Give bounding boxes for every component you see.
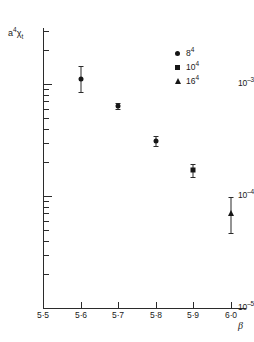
y-tick-label: 10–3 — [216, 78, 254, 88]
y-tick-minor — [44, 129, 49, 130]
error-bar-cap-lower — [116, 109, 121, 110]
y-tick-minor — [44, 109, 49, 110]
y-tick-minor — [44, 241, 49, 242]
data-point — [228, 210, 234, 216]
y-tick-minor — [44, 230, 49, 231]
circle-icon — [175, 51, 180, 56]
y-tick-minor — [44, 89, 49, 90]
error-bar-cap-lower — [191, 177, 196, 178]
y-tick-minor — [44, 201, 49, 202]
error-bar-cap-lower — [78, 92, 83, 93]
x-tick — [193, 302, 194, 308]
data-point — [78, 77, 83, 82]
legend-item: 84 — [172, 47, 199, 59]
legend-item: 164 — [172, 75, 199, 87]
square-icon — [191, 168, 196, 173]
legend-item: 104 — [172, 61, 199, 73]
y-tick-minor — [44, 274, 49, 275]
y-tick-minor — [44, 221, 49, 222]
data-point — [116, 103, 121, 108]
x-tick — [156, 302, 157, 308]
y-tick-exponent: –4 — [247, 188, 254, 195]
legend-label-exponent: 4 — [195, 74, 199, 81]
x-tick-label: 5·9 — [176, 310, 210, 320]
legend-label-exponent: 4 — [195, 60, 199, 67]
y-tick-minor — [44, 101, 49, 102]
y-tick-minor — [44, 118, 49, 119]
x-tick-label: 5·5 — [26, 310, 60, 320]
legend-label: 164 — [186, 76, 199, 86]
y-tick-major — [44, 196, 52, 197]
y-tick-minor — [44, 213, 49, 214]
y-tick-minor — [44, 95, 49, 96]
x-axis-title: β — [238, 320, 243, 331]
x-tick — [118, 302, 119, 308]
error-bar-cap-upper — [153, 136, 158, 137]
circle-icon — [116, 103, 121, 108]
figure-canvas: 10–310–410–5 5·55·65·75·85·96·0 a4χt β 8… — [0, 0, 254, 342]
x-tick-label: 5·7 — [101, 310, 135, 320]
legend: 84104164 — [172, 47, 199, 89]
x-tick-label: 6·0 — [214, 310, 248, 320]
y-tick-major — [44, 308, 52, 309]
y-axis-title-subscript: t — [21, 33, 23, 40]
y-tick-minor — [44, 255, 49, 256]
y-tick-minor — [44, 50, 49, 51]
square-icon — [175, 65, 180, 70]
y-tick-major — [44, 84, 52, 85]
circle-icon — [78, 77, 83, 82]
y-tick-mantissa: 10 — [238, 190, 247, 200]
legend-marker-triangle-icon — [172, 78, 183, 84]
circle-icon — [153, 138, 158, 143]
y-tick-exponent: –5 — [247, 300, 254, 307]
y-tick-mantissa: 10 — [238, 78, 247, 88]
y-tick-exponent: –3 — [247, 76, 254, 83]
y-tick-minor — [44, 162, 49, 163]
data-point — [191, 168, 196, 173]
error-bar-cap-upper — [78, 66, 83, 67]
x-tick — [231, 302, 232, 308]
y-axis-title: a4χt — [8, 28, 23, 38]
triangle-icon — [175, 78, 181, 84]
x-tick-label: 5·8 — [139, 310, 173, 320]
legend-label-exponent: 4 — [191, 46, 195, 53]
y-tick-minor — [44, 207, 49, 208]
y-tick-label: 10–4 — [216, 190, 254, 200]
y-axis-line — [43, 28, 44, 309]
legend-label: 84 — [186, 48, 194, 58]
x-tick — [81, 302, 82, 308]
x-tick — [43, 302, 44, 308]
y-tick-minor — [44, 31, 49, 32]
error-bar-cap-upper — [229, 197, 234, 198]
legend-marker-circle-icon — [172, 51, 183, 56]
x-tick-label: 5·6 — [64, 310, 98, 320]
legend-label: 104 — [186, 62, 199, 72]
data-point — [153, 138, 158, 143]
error-bar-cap-upper — [191, 164, 196, 165]
y-tick-minor — [44, 143, 49, 144]
error-bar-cap-lower — [229, 233, 234, 234]
triangle-icon — [228, 210, 234, 216]
legend-marker-square-icon — [172, 65, 183, 70]
error-bar-cap-lower — [153, 146, 158, 147]
